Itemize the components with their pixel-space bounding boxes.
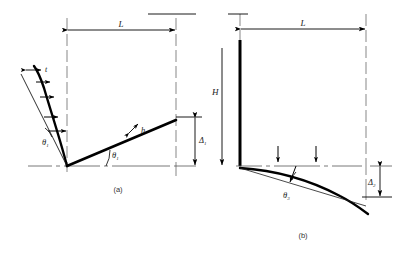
dimension-deflection-a: Δ1 bbox=[195, 118, 207, 165]
angle-theta1-beam-a: θ1 bbox=[106, 150, 119, 166]
figure-root: L t θ1 h bbox=[0, 0, 400, 255]
label-beam-depth-a: h bbox=[141, 125, 145, 135]
dimension-span-a: L bbox=[68, 19, 175, 30]
load-arrows-vertical-b bbox=[278, 146, 316, 162]
engineering-figure-svg: L t θ1 h bbox=[0, 0, 400, 255]
angle-arc-icon bbox=[106, 150, 110, 166]
panel-a: L t θ1 h bbox=[21, 18, 207, 194]
beam-depth-dimension-a: h bbox=[129, 124, 145, 135]
label-deflection-a: Δ1 bbox=[198, 135, 207, 146]
angle-theta3-b: θ3 bbox=[283, 166, 296, 201]
label-theta1-column-a: θ1 bbox=[42, 137, 49, 148]
inclined-beam-a bbox=[67, 120, 176, 166]
dimension-deflection-b: Δ2 bbox=[367, 167, 380, 196]
angle-arrow-icon bbox=[290, 166, 296, 182]
label-deflection-b: Δ2 bbox=[367, 177, 376, 188]
caption-panel-b: (b) bbox=[298, 231, 308, 240]
beam-reference-chord-b bbox=[240, 168, 366, 206]
dimension-height-b: H bbox=[211, 48, 222, 165]
dimension-span-b: L bbox=[241, 18, 365, 29]
deflected-column-a bbox=[34, 66, 67, 166]
label-height-b: H bbox=[211, 87, 219, 97]
label-span-a: L bbox=[117, 19, 123, 29]
panel-b: L H θ3 Δ2 bbox=[148, 14, 392, 240]
label-theta3-b: θ3 bbox=[283, 190, 290, 201]
deflected-beam-b bbox=[240, 168, 368, 214]
label-thickness-a: t bbox=[45, 65, 48, 74]
caption-panel-a: (a) bbox=[113, 185, 123, 194]
load-arrows-horizontal-a bbox=[36, 82, 66, 131]
dimension-arrow-icon bbox=[129, 124, 138, 133]
label-theta1-beam-a: θ1 bbox=[112, 150, 119, 161]
label-span-b: L bbox=[299, 18, 305, 28]
